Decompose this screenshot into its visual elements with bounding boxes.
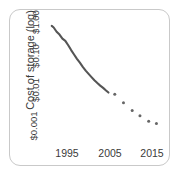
x-tick-label-0: 1995 [47, 147, 87, 160]
y-tick-label-2: $0.01 [30, 70, 42, 110]
chart-screenshot: Cost of storage (log) $1.00 $0.10 $0.01 … [0, 0, 179, 179]
x-tick-label-2: 2015 [132, 147, 172, 160]
y-tick-label-3: $0.001 [28, 106, 40, 146]
x-tick-label-1: 2005 [90, 147, 130, 160]
